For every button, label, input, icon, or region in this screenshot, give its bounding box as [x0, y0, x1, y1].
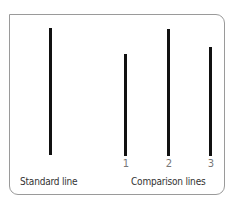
diagram-frame	[9, 14, 225, 195]
standard-line-label: Standard line	[20, 176, 77, 187]
comparison-number-2: 2	[162, 158, 176, 169]
comparison-line-3	[209, 47, 212, 156]
comparison-lines-label: Comparison lines	[131, 176, 205, 187]
comparison-number-1: 1	[119, 158, 133, 169]
comparison-line-2	[167, 29, 170, 156]
standard-line	[49, 28, 52, 155]
comparison-number-3: 3	[204, 158, 218, 169]
comparison-line-1	[124, 54, 127, 156]
